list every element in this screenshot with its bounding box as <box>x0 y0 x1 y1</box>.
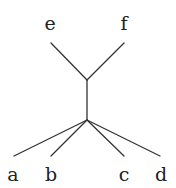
label-f: f <box>120 12 129 34</box>
label-d: d <box>155 163 167 185</box>
edge-e-upper-junction <box>51 43 87 80</box>
edges <box>14 43 160 156</box>
edge-lower-junction-c <box>87 120 124 156</box>
label-c: c <box>119 163 130 185</box>
edge-lower-junction-b <box>51 120 87 156</box>
label-b: b <box>45 163 57 185</box>
label-a: a <box>7 163 18 185</box>
edge-lower-junction-d <box>87 120 160 156</box>
tree-diagram: e f a b c d <box>0 0 176 188</box>
edge-f-upper-junction <box>87 43 124 80</box>
label-e: e <box>44 12 55 34</box>
edge-lower-junction-a <box>14 120 87 156</box>
